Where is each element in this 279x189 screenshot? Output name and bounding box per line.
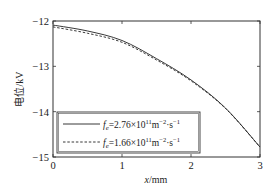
y-tick-label: −15 — [33, 152, 49, 163]
y-tick-label: −13 — [33, 61, 49, 72]
x-tick-label: 0 — [50, 160, 55, 171]
line-chart: 0123 −12−13−14−15 电位/kV x/mm fe=2.76×101… — [0, 0, 279, 189]
x-axis-label: x/mm — [144, 174, 168, 185]
y-tick-label: −12 — [33, 16, 49, 27]
y-axis-label: 电位/kV — [13, 71, 25, 107]
y-tick-label: −14 — [33, 107, 50, 118]
legend-item-solid: fe=2.76×1011m−2·s−1 — [103, 118, 180, 132]
x-tick-label: 1 — [119, 160, 124, 171]
legend: fe=2.76×1011m−2·s−1 fe=1.66×1011m−2·s−1 — [57, 112, 200, 153]
x-tick-label: 3 — [257, 160, 262, 171]
legend-item-dashed: fe=1.66×1011m−2·s−1 — [103, 136, 180, 150]
x-tick-label: 2 — [188, 160, 193, 171]
